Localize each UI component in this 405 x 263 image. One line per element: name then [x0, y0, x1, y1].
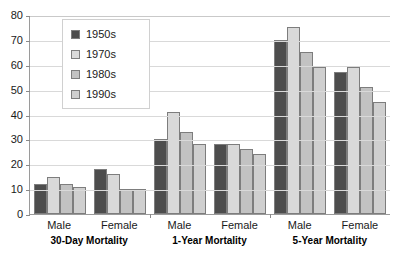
y-axis-tick-label: 50: [11, 85, 23, 96]
bar[interactable]: [214, 144, 227, 214]
legend: 1950s1970s1980s1990s: [62, 19, 150, 109]
legend-swatch-icon: [71, 90, 80, 99]
y-axis-tick-mark: [26, 116, 30, 117]
y-axis-tick-label: 10: [11, 184, 23, 195]
bar[interactable]: [47, 177, 60, 214]
y-axis-tick-mark: [26, 165, 30, 166]
bar[interactable]: [253, 154, 266, 214]
bar[interactable]: [193, 144, 206, 214]
bar[interactable]: [154, 139, 167, 214]
x-axis-group-label: 1-Year Mortality: [172, 235, 246, 247]
bar[interactable]: [334, 72, 347, 214]
y-axis-tick-label: 60: [11, 60, 23, 71]
x-axis-group: MaleFemale30-Day Mortality: [29, 218, 149, 263]
bar[interactable]: [180, 132, 193, 214]
x-axis-subgroup-label: Male: [270, 218, 330, 232]
bar[interactable]: [227, 144, 240, 214]
x-axis-subgroup-label: Female: [89, 218, 149, 232]
y-axis-tick-mark: [26, 140, 30, 141]
gridline: [30, 116, 390, 117]
bar[interactable]: [94, 169, 107, 214]
legend-swatch-icon: [71, 70, 80, 79]
gridline: [30, 140, 390, 141]
y-axis-tick-mark: [26, 91, 30, 92]
y-axis-tick-label: 20: [11, 159, 23, 170]
y-axis-tick-mark: [26, 16, 30, 17]
y-axis-tick-label: 0: [17, 209, 23, 220]
legend-item-label: 1970s: [86, 49, 116, 60]
legend-item[interactable]: 1970s: [63, 44, 149, 64]
bar[interactable]: [133, 189, 146, 214]
legend-item[interactable]: 1980s: [63, 64, 149, 84]
legend-item-label: 1990s: [86, 89, 116, 100]
gridline: [30, 190, 390, 191]
bar[interactable]: [360, 87, 373, 214]
bar[interactable]: [60, 184, 73, 214]
x-axis-subgroup-label: Female: [210, 218, 270, 232]
legend-item[interactable]: 1990s: [63, 84, 149, 104]
x-axis-subgroup-label: Male: [29, 218, 89, 232]
y-axis-tick-mark: [26, 215, 30, 216]
bar[interactable]: [287, 27, 300, 214]
legend-item[interactable]: 1950s: [63, 24, 149, 44]
x-axis-subgroup-row: MaleFemale: [149, 218, 269, 232]
x-axis-subgroup-label: Female: [330, 218, 390, 232]
y-axis-tick-mark: [26, 66, 30, 67]
legend-swatch-icon: [71, 30, 80, 39]
legend-item-label: 1980s: [86, 69, 116, 80]
y-axis-tick-label: 40: [11, 110, 23, 121]
bar-chart: 80706050403020100 MaleFemale30-Day Morta…: [0, 0, 405, 263]
x-axis-group-label: 30-Day Mortality: [51, 235, 128, 247]
x-axis-subgroup-label: Male: [149, 218, 209, 232]
gridline: [30, 16, 390, 17]
bar[interactable]: [240, 149, 253, 214]
x-axis-subgroup-row: MaleFemale: [29, 218, 149, 232]
y-axis-tick-mark: [26, 41, 30, 42]
legend-swatch-icon: [71, 50, 80, 59]
y-axis-tick-label: 80: [11, 10, 23, 21]
x-axis-group: MaleFemale5-Year Mortality: [270, 218, 390, 263]
y-axis-tick-label: 70: [11, 35, 23, 46]
x-axis-group-label: 5-Year Mortality: [293, 235, 367, 247]
bar[interactable]: [34, 184, 47, 214]
bar[interactable]: [167, 112, 180, 214]
legend-item-label: 1950s: [86, 29, 116, 40]
x-axis-subgroup-row: MaleFemale: [270, 218, 390, 232]
y-axis-tick-mark: [26, 190, 30, 191]
x-axis: MaleFemale30-Day MortalityMaleFemale1-Ye…: [29, 218, 390, 263]
y-axis: 80706050403020100: [0, 0, 26, 215]
bar[interactable]: [120, 189, 133, 214]
bar[interactable]: [107, 174, 120, 214]
bar[interactable]: [373, 102, 386, 214]
y-axis-tick-label: 30: [11, 134, 23, 145]
x-axis-group: MaleFemale1-Year Mortality: [149, 218, 269, 263]
gridline: [30, 165, 390, 166]
